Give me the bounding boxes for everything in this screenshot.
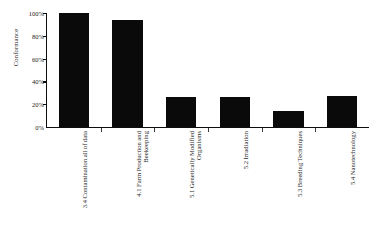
x-tick-mark [262, 128, 263, 132]
y-tick-mark [43, 104, 47, 105]
y-tick-label: 40% [18, 78, 44, 85]
y-axis-tick-labels: 100%80%60%40%20%0% [18, 13, 44, 127]
bar [220, 97, 250, 127]
category-label: 5.3 Breeding Techniques [296, 131, 310, 223]
category-label: 4.1 Farm Production and Beekeeping [135, 131, 149, 223]
bar [166, 97, 196, 127]
bar [327, 96, 357, 127]
category-label: 5.1 Genetically Modified Organisms [188, 131, 202, 223]
category-label: 5.2 Irradiation [242, 131, 256, 223]
y-tick-label: 0% [18, 124, 44, 131]
y-tick-mark [43, 13, 47, 14]
x-tick-mark [101, 128, 102, 132]
bar [59, 13, 89, 127]
category-label: 3.4 Contamination all of data [81, 131, 95, 223]
bar [112, 20, 142, 127]
y-tick-label: 100% [18, 10, 44, 17]
y-tick-label: 80% [18, 32, 44, 39]
x-tick-mark [315, 128, 316, 132]
y-tick-mark [43, 59, 47, 60]
category-label: 5.4 Nanotechnology [349, 131, 363, 223]
y-tick-label: 20% [18, 101, 44, 108]
bar-chart-figure: Conformance 100%80%60%40%20%0% 3.4 Conta… [0, 0, 382, 227]
y-tick-label: 60% [18, 55, 44, 62]
bar [273, 111, 303, 127]
x-axis-category-labels: 3.4 Contamination all of data4.1 Farm Pr… [47, 131, 369, 225]
y-tick-mark [43, 81, 47, 82]
x-tick-mark [208, 128, 209, 132]
plot-area [47, 13, 369, 127]
x-tick-mark [154, 128, 155, 132]
y-tick-mark [43, 36, 47, 37]
